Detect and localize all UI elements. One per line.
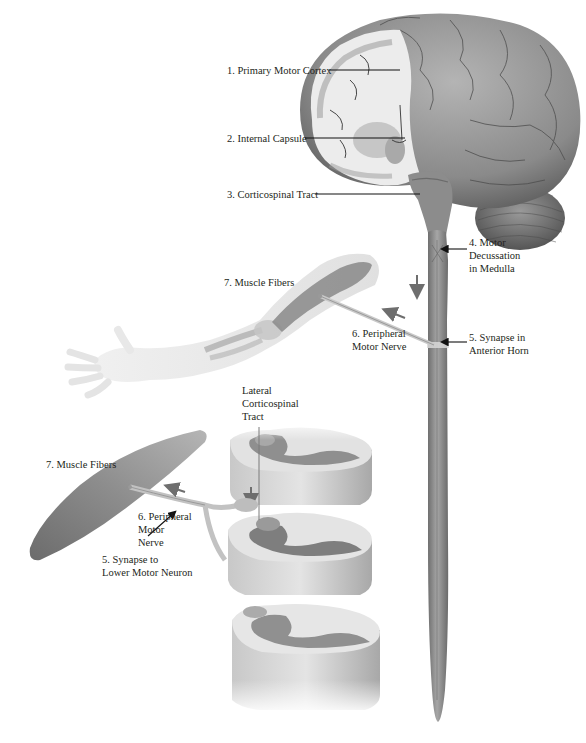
label-line: Corticospinal	[242, 397, 299, 410]
label-synapse-anterior-horn: 5. Synapse in Anterior Horn	[469, 331, 529, 357]
label-muscle-fibers-detail: 7. Muscle Fibers	[46, 458, 116, 471]
label-line: Tract	[242, 410, 299, 423]
brain	[300, 14, 580, 250]
label-corticospinal-tract: 3. Corticospinal Tract	[227, 188, 318, 201]
motor-pathway-illustration	[0, 0, 586, 743]
label-lateral-corticospinal-tract: Lateral Corticospinal Tract	[242, 384, 299, 423]
label-line: Lateral	[242, 384, 299, 397]
label-line: Motor Nerve	[352, 340, 407, 353]
label-line: 6. Peripheral	[352, 327, 407, 340]
label-primary-motor-cortex: 1. Primary Motor Cortex	[227, 64, 331, 77]
spinal-cord-segments	[225, 420, 385, 715]
label-line: Anterior Horn	[469, 344, 529, 357]
label-line: Lower Motor Neuron	[102, 566, 192, 579]
direction-arrow-nerve-arm	[385, 310, 405, 318]
label-motor-decussation: 4. Motor Decussation in Medulla	[469, 236, 520, 275]
label-line: 5. Synapse in	[469, 331, 529, 344]
label-internal-capsule: 2. Internal Capsule	[227, 132, 307, 145]
label-line: 4. Motor	[469, 236, 520, 249]
direction-arrow-nerve-detail	[167, 486, 185, 492]
label-line: Decussation	[469, 249, 520, 262]
label-line: 5. Synapse to	[102, 553, 192, 566]
label-peripheral-motor-nerve-detail: 6. Peripheral Motor Nerve	[138, 510, 192, 549]
label-line: 6. Peripheral	[138, 510, 192, 523]
label-line: Nerve	[138, 536, 192, 549]
spinal-cord	[427, 230, 449, 722]
label-line: in Medulla	[469, 262, 520, 275]
label-peripheral-motor-nerve-arm: 6. Peripheral Motor Nerve	[352, 327, 407, 353]
label-synapse-lower-motor-neuron: 5. Synapse to Lower Motor Neuron	[102, 553, 192, 579]
label-muscle-fibers-arm: 7. Muscle Fibers	[224, 276, 294, 289]
arm	[68, 254, 379, 395]
label-line: Motor	[138, 523, 192, 536]
